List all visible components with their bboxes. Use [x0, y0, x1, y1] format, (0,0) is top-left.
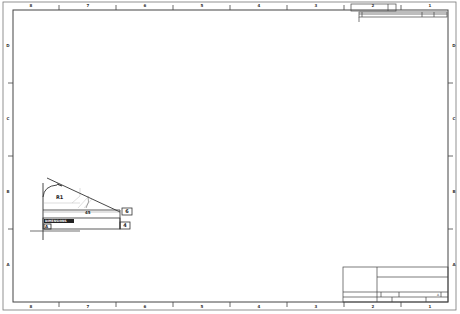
- left-zone-ticks: [8, 83, 13, 229]
- zone-label-left-d: D: [4, 43, 12, 48]
- note-label: DIMENSIONS: [45, 219, 67, 223]
- zone-label-left-a: A: [4, 262, 12, 267]
- top-zone-ticks: [59, 5, 401, 10]
- right-zone-ticks: [448, 83, 453, 229]
- datum-label: A: [45, 224, 48, 229]
- zone-label-top-7: 7: [84, 3, 92, 8]
- zone-label-left-c: C: [4, 116, 12, 121]
- zone-label-bottom-6: 6: [141, 304, 149, 309]
- inner-frame: [13, 10, 448, 302]
- zone-label-left-b: B: [4, 189, 12, 194]
- zone-label-bottom-2: 2: [369, 304, 377, 309]
- sketch-geometry: [30, 178, 132, 240]
- title-block-sheet-label: A: [437, 293, 439, 297]
- title-block: [343, 267, 448, 302]
- zone-label-top-2: 2: [369, 3, 377, 8]
- fillet-radius-label: R1: [56, 194, 63, 200]
- zone-label-top-1: 1: [426, 3, 434, 8]
- zone-label-bottom-5: 5: [198, 304, 206, 309]
- zone-label-bottom-7: 7: [84, 304, 92, 309]
- zone-label-right-a: A: [450, 262, 458, 267]
- angle-dimension-label: 45: [85, 210, 91, 215]
- zone-label-top-8: 8: [27, 3, 35, 8]
- feature-frame-2[interactable]: 4: [121, 222, 129, 229]
- zone-label-right-c: C: [450, 116, 458, 121]
- bottom-zone-ticks: [59, 302, 401, 307]
- zone-label-top-5: 5: [198, 3, 206, 8]
- zone-label-top-4: 4: [255, 3, 263, 8]
- zone-label-top-3: 3: [312, 3, 320, 8]
- zone-label-bottom-8: 8: [27, 304, 35, 309]
- drawing-canvas: [0, 0, 460, 314]
- zone-label-bottom-1: 1: [426, 304, 434, 309]
- zone-label-right-d: D: [450, 43, 458, 48]
- outer-border: [3, 2, 456, 310]
- zone-label-bottom-3: 3: [312, 304, 320, 309]
- zone-label-right-b: B: [450, 189, 458, 194]
- feature-frame-1[interactable]: 6: [123, 208, 131, 215]
- zone-label-bottom-4: 4: [255, 304, 263, 309]
- zone-label-top-6: 6: [141, 3, 149, 8]
